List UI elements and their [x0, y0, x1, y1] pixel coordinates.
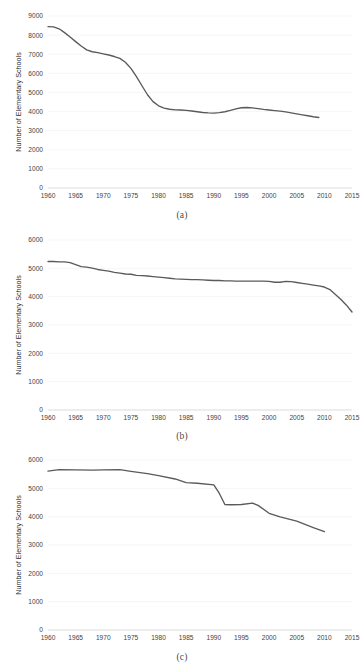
- x-tick-label: 1985: [179, 192, 194, 199]
- x-tick-label: 2010: [317, 192, 332, 199]
- x-tick-label: 2015: [345, 192, 360, 199]
- y-tick-label: 3000: [28, 541, 43, 548]
- x-tick-label: 1970: [96, 192, 111, 199]
- x-tick-label: 1985: [179, 414, 194, 421]
- y-tick-label: 6000: [28, 70, 43, 77]
- x-tick-label: 1980: [151, 192, 166, 199]
- figure-b: 0100020003000400050006000196019651970197…: [0, 230, 364, 450]
- x-tick-label: 1980: [151, 414, 166, 421]
- x-tick-label: 2005: [289, 634, 304, 641]
- y-tick-label: 1000: [28, 378, 43, 385]
- x-tick-label: 2010: [317, 634, 332, 641]
- y-tick-label: 3000: [28, 321, 43, 328]
- figure-page: 0100020003000400050006000700080009000196…: [0, 0, 364, 671]
- x-tick-label: 2015: [345, 414, 360, 421]
- y-tick-label: 1000: [28, 165, 43, 172]
- x-tick-label: 2005: [289, 192, 304, 199]
- y-tick-label: 5000: [28, 265, 43, 272]
- x-tick-label: 1975: [124, 634, 139, 641]
- x-tick-label: 2015: [345, 634, 360, 641]
- x-tick-label: 1975: [124, 414, 139, 421]
- data-series-line-0: [48, 470, 324, 532]
- x-tick-label: 2005: [289, 414, 304, 421]
- y-tick-label: 5000: [28, 485, 43, 492]
- y-axis-title: Number of Elementary Schools: [14, 495, 23, 595]
- x-tick-label: 1970: [96, 414, 111, 421]
- figure-a: 0100020003000400050006000700080009000196…: [0, 0, 364, 230]
- y-tick-label: 2000: [28, 570, 43, 577]
- x-tick-label: 2000: [262, 634, 277, 641]
- x-tick-label: 1990: [206, 192, 221, 199]
- x-tick-label: 1995: [234, 634, 249, 641]
- y-tick-label: 0: [39, 406, 43, 413]
- y-tick-label: 2000: [28, 146, 43, 153]
- data-series-line-0: [48, 27, 319, 118]
- y-tick-label: 3000: [28, 127, 43, 134]
- x-tick-label: 1985: [179, 634, 194, 641]
- y-tick-label: 6000: [28, 456, 43, 463]
- x-tick-label: 1960: [41, 192, 56, 199]
- x-tick-label: 2000: [262, 414, 277, 421]
- y-tick-label: 7000: [28, 51, 43, 58]
- figure-c: 0100020003000400050006000196019651970197…: [0, 450, 364, 671]
- y-axis-title: Number of Elementary Schools: [14, 275, 23, 375]
- x-tick-label: 1970: [96, 634, 111, 641]
- y-tick-label: 4000: [28, 513, 43, 520]
- caption-c: (c): [0, 652, 364, 662]
- x-tick-label: 1965: [68, 414, 83, 421]
- y-tick-label: 4000: [28, 108, 43, 115]
- y-tick-label: 1000: [28, 598, 43, 605]
- y-tick-label: 0: [39, 184, 43, 191]
- caption-b: (b): [0, 431, 364, 441]
- x-tick-label: 1995: [234, 192, 249, 199]
- y-tick-label: 9000: [28, 12, 43, 19]
- x-tick-label: 1965: [68, 634, 83, 641]
- x-tick-label: 1995: [234, 414, 249, 421]
- x-tick-label: 1990: [206, 634, 221, 641]
- x-tick-label: 1980: [151, 634, 166, 641]
- data-series-line-0: [48, 262, 352, 312]
- y-tick-label: 8000: [28, 32, 43, 39]
- y-tick-label: 5000: [28, 89, 43, 96]
- chart-c-line-plot: 0100020003000400050006000196019651970197…: [0, 450, 364, 654]
- y-tick-label: 2000: [28, 350, 43, 357]
- chart-a-line-plot: 0100020003000400050006000700080009000196…: [0, 0, 364, 212]
- x-tick-label: 1965: [68, 192, 83, 199]
- x-tick-label: 1960: [41, 414, 56, 421]
- caption-a: (a): [0, 210, 364, 220]
- y-tick-label: 0: [39, 626, 43, 633]
- y-axis-title: Number of Elementary Schools: [14, 52, 23, 152]
- chart-b-line-plot: 0100020003000400050006000196019651970197…: [0, 230, 364, 433]
- y-tick-label: 4000: [28, 293, 43, 300]
- x-tick-label: 1960: [41, 634, 56, 641]
- y-tick-label: 6000: [28, 236, 43, 243]
- x-tick-label: 2000: [262, 192, 277, 199]
- x-tick-label: 1990: [206, 414, 221, 421]
- x-tick-label: 2010: [317, 414, 332, 421]
- x-tick-label: 1975: [124, 192, 139, 199]
